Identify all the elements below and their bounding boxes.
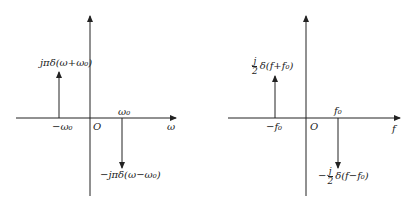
fraction-denominator: 2 xyxy=(326,177,334,186)
fraction: j 2 xyxy=(326,167,334,186)
impulse-up-expression: δ(f+f₀) xyxy=(260,60,294,71)
f-x-axis-label: f xyxy=(392,124,396,134)
f-impulse-up-label: j 2 δ(f+f₀) xyxy=(251,57,293,76)
f-neg-tick-label: −f₀ xyxy=(266,122,282,132)
f-origin-label: O xyxy=(310,122,318,132)
impulse-down-label: −jπδ(ω−ω₀) xyxy=(100,170,161,180)
f-impulse-down-label: − j 2 δ(f−f₀) xyxy=(318,167,369,186)
fraction: j 2 xyxy=(251,57,259,76)
impulse-down-expression: δ(f−f₀) xyxy=(335,170,369,181)
neg-tick-label: −ω₀ xyxy=(52,122,73,132)
x-axis-label: ω xyxy=(167,122,175,132)
fraction-denominator: 2 xyxy=(251,67,259,76)
impulse-up-label: jπδ(ω+ω₀) xyxy=(40,58,92,68)
origin-label: O xyxy=(93,122,101,132)
frequency-diagram xyxy=(228,16,400,196)
f-pos-tick-label: f₀ xyxy=(334,106,342,116)
minus-sign: − xyxy=(318,170,326,181)
pos-tick-label: ω₀ xyxy=(118,107,130,117)
